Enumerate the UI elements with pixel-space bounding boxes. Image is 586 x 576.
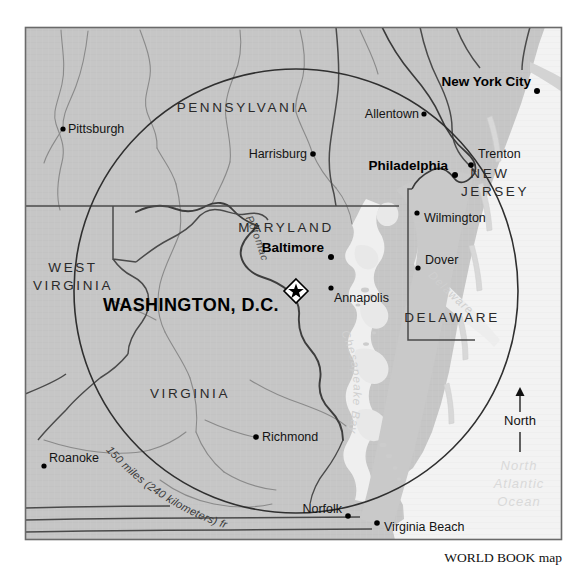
city-label-baltimore: Baltimore [262,240,325,255]
city-label-annapolis: Annapolis [334,291,389,305]
state-label-virginia: VIRGINIA [150,386,230,401]
city-dot-trenton [468,162,474,168]
city-dot-harrisburg [310,151,316,157]
city-label-philadelphia: Philadelphia [368,158,448,173]
ocean-label: North Atlantic Ocean [493,458,545,509]
city-dot-pittsburgh [60,126,65,131]
city-dot-roanoke [41,463,46,468]
city-dot-norfolk [345,513,351,519]
city-dot-philadelphia [452,172,458,178]
city-dot-annapolis [328,285,333,290]
map-figure: Chesapeake Bay Delaware Bay Potomac R. 1… [0,0,586,576]
city-dot-virginia-beach [374,520,380,526]
ocean-label-line3: Ocean [497,494,540,509]
state-label-delaware: DELAWARE [404,310,500,325]
city-label-trenton: Trenton [478,147,521,161]
city-label-richmond: Richmond [262,430,318,444]
city-label-dover: Dover [425,253,458,267]
city-label-virginia-beach: Virginia Beach [384,520,464,534]
map-credit: WORLD BOOK map [444,550,562,565]
north-arrow-label: North [504,413,536,428]
city-dot-baltimore [328,254,334,260]
state-label-pennsylvania: PENNSYLVANIA [177,100,310,115]
state-label-new: NEW [470,166,509,181]
ocean-label-line1: North [501,458,538,473]
city-label-new-york-city: New York City [441,74,531,89]
state-label-new-jersey: JERSEY [461,184,529,199]
city-dot-richmond [253,434,259,440]
city-label-wilmington: Wilmington [424,211,486,225]
city-label-harrisburg: Harrisburg [249,147,307,161]
city-label-norfolk: Norfolk [302,502,342,516]
city-dot-dover [415,265,420,270]
city-dot-wilmington [414,210,419,215]
state-label-west: WEST [48,260,97,275]
city-dot-new-york-city [534,88,540,94]
map-body: Chesapeake Bay Delaware Bay Potomac R. 1… [0,0,562,540]
city-label-roanoke: Roanoke [49,451,99,465]
state-label-west-virginia: VIRGINIA [33,278,113,293]
map-canvas: Chesapeake Bay Delaware Bay Potomac R. 1… [0,0,586,576]
city-label-allentown: Allentown [365,107,419,121]
city-label-pittsburgh: Pittsburgh [68,122,124,136]
ocean-label-line2: Atlantic [493,476,545,491]
capital-label-washington-dc: WASHINGTON, D.C. [103,295,279,315]
city-dot-allentown [421,111,426,116]
state-label-maryland: MARYLAND [238,220,334,235]
